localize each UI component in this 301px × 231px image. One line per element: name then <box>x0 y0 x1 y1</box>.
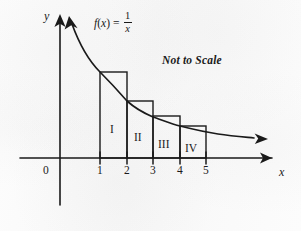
rectangle-label-I: I <box>110 124 114 136</box>
rectangle-label-II: II <box>134 132 142 144</box>
fraction-numerator: 1 <box>124 11 131 23</box>
diagram-canvas <box>0 0 301 231</box>
curve-arrowhead-up <box>65 16 78 29</box>
origin-label: 0 <box>43 165 49 177</box>
function-close-paren: ) <box>106 17 110 29</box>
x-axis-label: x <box>279 166 284 178</box>
curve-arrowhead-right <box>255 134 268 144</box>
fraction-one-over-x: 1 x <box>124 11 132 35</box>
fraction-denominator: x <box>124 23 131 35</box>
function-label: f(x) = 1 x <box>94 11 132 35</box>
y-axis-label: y <box>44 10 49 22</box>
rectangle-label-IV: IV <box>185 143 197 155</box>
x-tick-label-4: 4 <box>177 165 183 177</box>
rectangle-label-III: III <box>158 139 170 151</box>
x-tick-label-5: 5 <box>203 165 209 177</box>
not-to-scale-note: Not to Scale <box>162 55 222 67</box>
x-tick-label-1: 1 <box>97 165 103 177</box>
function-equals: = <box>113 17 120 29</box>
x-tick-label-3: 3 <box>150 165 156 177</box>
riemann-rectangles-figure: y x 0 1 2 3 4 5 I II III IV Not to Scale… <box>0 0 301 231</box>
x-tick-label-2: 2 <box>124 165 130 177</box>
